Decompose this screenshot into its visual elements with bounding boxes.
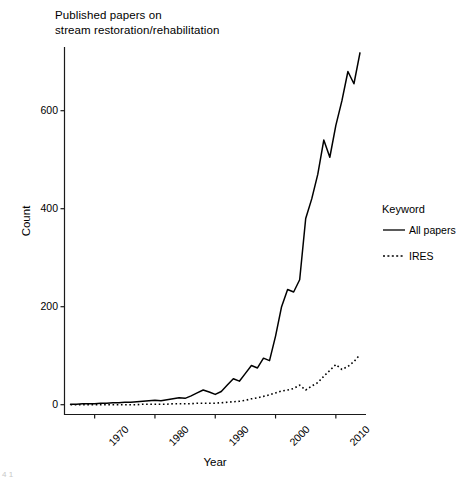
axis-lines — [65, 47, 367, 415]
series-line-all-papers — [71, 53, 360, 404]
chart-figure: Published papers on stream restoration/r… — [0, 0, 468, 484]
plot-area — [0, 0, 468, 484]
corner-artifact-text: 4 1 — [2, 470, 13, 479]
series-line-ires — [71, 355, 360, 405]
